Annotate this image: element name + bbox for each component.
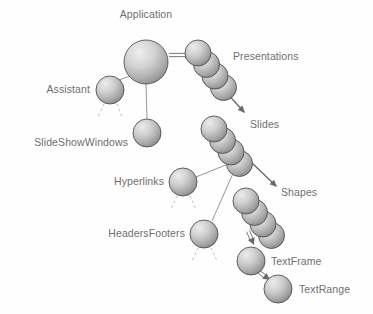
node-label-application: Application (120, 8, 173, 20)
node-application[interactable] (124, 40, 168, 84)
node-label-shapes: Shapes (281, 186, 317, 198)
sphere-slides-0 (201, 116, 227, 142)
node-label-slides: Slides (250, 118, 279, 130)
sphere-textframe (237, 247, 265, 275)
node-hyperlinks[interactable] (169, 168, 197, 196)
node-headersfooters[interactable] (190, 220, 218, 248)
sphere-shapes-0 (233, 188, 259, 214)
sphere-headersfooters (190, 220, 218, 248)
node-slideshowwindows[interactable] (133, 119, 161, 147)
sphere-hyperlinks (169, 168, 197, 196)
node-label-textframe: TextFrame (271, 255, 322, 267)
node-label-slideshowwindows: SlideShowWindows (34, 136, 128, 148)
node-label-textrange: TextRange (299, 283, 350, 295)
node-label-presentations: Presentations (233, 50, 299, 62)
sphere-assistant (96, 76, 124, 104)
node-label-hyperlinks: Hyperlinks (114, 175, 164, 187)
diagram-canvas: ApplicationPresentationsSlidesShapesAssi… (0, 0, 373, 314)
object-model-diagram: ApplicationPresentationsSlidesShapesAssi… (0, 0, 373, 314)
sphere-presentations-0 (185, 40, 211, 66)
sphere-application (124, 40, 168, 84)
node-textrange[interactable] (264, 275, 292, 303)
node-label-assistant: Assistant (47, 83, 91, 95)
node-textframe[interactable] (237, 247, 265, 275)
node-label-headersfooters: HeadersFooters (108, 227, 185, 239)
sphere-slideshowwindows (133, 119, 161, 147)
sphere-textrange (264, 275, 292, 303)
node-assistant[interactable] (96, 76, 124, 104)
